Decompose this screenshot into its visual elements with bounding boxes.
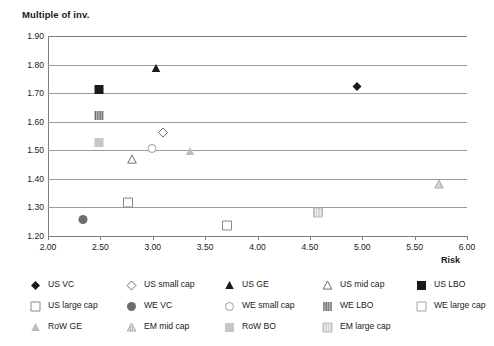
square-filled-icon: [416, 277, 430, 291]
legend-item-us-mid-cap[interactable]: US mid cap: [322, 276, 384, 292]
x-tick-label: 5.50: [395, 243, 435, 252]
x-tick-label: 3.00: [133, 243, 173, 252]
legend-item-us-small-cap[interactable]: US small cap: [126, 276, 195, 292]
data-point-em-mid-cap: [433, 176, 444, 194]
x-tick: [205, 236, 206, 240]
x-tick-label: 6.00: [447, 243, 487, 252]
legend-item-we-lbo[interactable]: WE LBO: [322, 297, 373, 313]
legend-label: EM mid cap: [144, 321, 189, 331]
x-tick: [258, 236, 259, 240]
legend-label: WE VC: [144, 300, 172, 310]
y-tick-label: 1.30: [10, 203, 44, 212]
data-point-we-lbo: [94, 107, 105, 125]
x-tick: [48, 236, 49, 240]
triangle-filled-icon: [224, 277, 238, 291]
gridline: [48, 36, 467, 37]
x-tick-label: 4.00: [238, 243, 278, 252]
x-tick-label: 3.50: [185, 243, 225, 252]
data-point-row-bo: [94, 134, 105, 152]
data-point-us-mid-cap: [126, 151, 137, 169]
square-striped-dark-icon: [322, 298, 336, 312]
triangle-light-icon: [30, 319, 44, 333]
legend-item-us-ge[interactable]: US GE: [224, 276, 269, 292]
data-point-us-lbo: [94, 81, 105, 99]
legend-label: RoW GE: [48, 321, 82, 331]
triangle-open-icon: [322, 277, 336, 291]
gridline: [48, 150, 467, 151]
x-tick: [153, 236, 154, 240]
square-striped-light-icon: [322, 319, 336, 333]
legend-item-row-ge[interactable]: RoW GE: [30, 318, 82, 334]
x-tick: [310, 236, 311, 240]
diamond-filled-icon: [30, 277, 44, 291]
y-tick-label: 1.50: [10, 146, 44, 155]
legend-label: US VC: [48, 279, 74, 289]
chart-figure: Multiple of inv. 1.901.801.701.601.501.4…: [0, 0, 494, 346]
circle-open-icon: [224, 298, 238, 312]
y-tick-label: 1.90: [10, 32, 44, 41]
square-open-icon: [30, 298, 44, 312]
legend-label: US LBO: [434, 279, 466, 289]
legend-label: WE large cap: [434, 300, 486, 310]
data-point-us-vc: [352, 78, 363, 96]
triangle-hatched-icon: [126, 319, 140, 333]
gridline: [48, 207, 467, 208]
legend-item-we-vc[interactable]: WE VC: [126, 297, 172, 313]
data-point-we-small-cap: [146, 140, 157, 158]
legend-label: WE small cap: [242, 300, 295, 310]
legend-label: US large cap: [48, 300, 98, 310]
data-point-we-vc: [77, 211, 88, 229]
y-tick-label: 1.80: [10, 61, 44, 70]
gridline: [48, 65, 467, 66]
gridline: [48, 93, 467, 94]
legend-item-us-vc[interactable]: US VC: [30, 276, 74, 292]
legend-label: US mid cap: [340, 279, 384, 289]
x-tick-label: 2.00: [28, 243, 68, 252]
square-light-icon: [224, 319, 238, 333]
y-tick-label: 1.20: [10, 232, 44, 241]
data-point-us-large-cap: [122, 194, 133, 212]
square-open-light-icon: [416, 298, 430, 312]
legend-item-us-lbo[interactable]: US LBO: [416, 276, 466, 292]
y-tick-label: 1.40: [10, 175, 44, 184]
x-tick: [415, 236, 416, 240]
y-tick-label: 1.60: [10, 118, 44, 127]
data-point-us-ge: [150, 60, 161, 78]
legend-label: US small cap: [144, 279, 195, 289]
legend-item-we-large-cap[interactable]: WE large cap: [416, 297, 486, 313]
legend-item-we-small-cap[interactable]: WE small cap: [224, 297, 295, 313]
data-point-row-ge: [185, 143, 196, 161]
gridline: [48, 179, 467, 180]
legend-item-em-mid-cap[interactable]: EM mid cap: [126, 318, 189, 334]
x-tick-label: 5.00: [342, 243, 382, 252]
y-tick-label: 1.70: [10, 89, 44, 98]
gridline: [48, 122, 467, 123]
x-tick-label: 4.50: [290, 243, 330, 252]
legend-item-us-large-cap[interactable]: US large cap: [30, 297, 98, 313]
legend-label: US GE: [242, 279, 269, 289]
data-point-we-large-cap: [222, 217, 233, 235]
diamond-open-icon: [126, 277, 140, 291]
legend-label: EM large cap: [340, 321, 391, 331]
plot-area: [48, 36, 467, 236]
x-tick-label: 2.50: [80, 243, 120, 252]
chart-legend: US VCUS small capUS GEUS mid capUS LBOUS…: [30, 276, 486, 338]
data-point-em-large-cap: [313, 204, 324, 222]
legend-item-em-large-cap[interactable]: EM large cap: [322, 318, 391, 334]
x-tick: [362, 236, 363, 240]
x-tick: [467, 236, 468, 240]
legend-label: WE LBO: [340, 300, 373, 310]
legend-label: RoW BO: [242, 321, 276, 331]
x-axis-title: Risk: [441, 255, 460, 265]
x-tick: [100, 236, 101, 240]
circle-filled-icon: [126, 298, 140, 312]
data-point-us-small-cap: [158, 124, 169, 142]
legend-item-row-bo[interactable]: RoW BO: [224, 318, 276, 334]
